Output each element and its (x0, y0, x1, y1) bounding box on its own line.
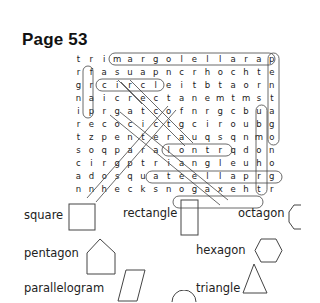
grid-letter: n (188, 157, 201, 170)
grid-letter: a (72, 170, 85, 183)
grid-letter: i (136, 118, 149, 131)
grid-letter: o (240, 79, 253, 92)
grid-letter: o (175, 183, 188, 196)
grid-letter: r (162, 131, 175, 144)
grid-letter: r (201, 105, 214, 118)
grid-letter: o (85, 144, 98, 157)
grid-letter: i (111, 79, 124, 92)
rectangle-icon (180, 199, 200, 237)
grid-letter: b (240, 105, 253, 118)
grid-letter: l (175, 53, 188, 66)
grid-letter: h (240, 183, 253, 196)
grid-letter: t (72, 53, 85, 66)
grid-letter: a (136, 66, 149, 79)
grid-letter: u (240, 118, 253, 131)
word-label: parallelogram (24, 281, 104, 295)
grid-letter: s (111, 66, 124, 79)
grid-letter: n (85, 183, 98, 196)
grid-letter: e (188, 170, 201, 183)
grid-letter: e (227, 183, 240, 196)
grid-letter: t (227, 92, 240, 105)
grid-letter: p (98, 131, 111, 144)
grid-letter: f (175, 105, 188, 118)
grid-letter: c (98, 79, 111, 92)
grid-letter: g (201, 157, 214, 170)
grid-letter: t (252, 66, 265, 79)
grid-letter: g (111, 157, 124, 170)
grid-letter: o (265, 157, 278, 170)
grid-letter: c (188, 118, 201, 131)
grid-row: nnhecksnogaxehtr (72, 183, 278, 196)
grid-row: cirgptriangleuho (72, 157, 278, 170)
grid-row: recocictgciroubg (72, 118, 278, 131)
grid-letter: h (252, 157, 265, 170)
grid-letter: c (149, 92, 162, 105)
grid-letter: t (136, 157, 149, 170)
grid-letter: e (111, 131, 124, 144)
grid-letter: e (265, 66, 278, 79)
grid-letter: m (240, 92, 253, 105)
grid-letter: l (214, 170, 227, 183)
word-search-grid: trimargolellaraprfasuapncrhochtegrcircle… (72, 53, 278, 196)
grid-letter: r (136, 53, 149, 66)
grid-letter: q (227, 131, 240, 144)
grid-letter: r (252, 170, 265, 183)
word-parallelogram: parallelogram (24, 281, 104, 295)
grid-letter: c (124, 118, 137, 131)
grid-letter: s (252, 92, 265, 105)
grid-letter: p (85, 105, 98, 118)
grid-letter: o (98, 170, 111, 183)
grid-letter: a (149, 144, 162, 157)
parallelogram-icon (117, 269, 147, 303)
grid-letter: c (72, 157, 85, 170)
grid-letter: i (162, 157, 175, 170)
grid-letter: i (175, 79, 188, 92)
grid-letter: a (252, 53, 265, 66)
grid-letter: r (124, 79, 137, 92)
word-pentagon: pentagon (24, 246, 79, 260)
grid-letter: t (72, 131, 85, 144)
grid-letter: p (265, 53, 278, 66)
grid-row: adosquateellaprg (72, 170, 278, 183)
grid-letter: a (201, 183, 214, 196)
grid-letter: b (252, 118, 265, 131)
grid-letter: t (162, 170, 175, 183)
grid-row: naicrectanemtmst (72, 92, 278, 105)
grid-letter: n (265, 79, 278, 92)
square-icon (68, 203, 96, 231)
grid-letter: l (201, 170, 214, 183)
grid-letter: r (136, 144, 149, 157)
grid-row: rfasuapncrhochte (72, 66, 278, 79)
grid-letter: a (175, 157, 188, 170)
grid-letter: m (111, 53, 124, 66)
grid-letter: i (85, 157, 98, 170)
grid-letter: n (72, 183, 85, 196)
word-label: octagon (238, 206, 285, 220)
grid-letter: e (227, 157, 240, 170)
grid-letter: p (124, 157, 137, 170)
grid-letter: s (149, 183, 162, 196)
grid-letter: c (149, 118, 162, 131)
grid-letter: o (214, 66, 227, 79)
grid-row: grcircleitbtaorn (72, 79, 278, 92)
grid-letter: q (124, 170, 137, 183)
grid-letter: g (149, 53, 162, 66)
grid-letter: r (240, 53, 253, 66)
grid-letter: u (124, 66, 137, 79)
grid-letter: o (111, 118, 124, 131)
grid-letter: n (188, 144, 201, 157)
grid-letter: a (85, 92, 98, 105)
word-triangle: triangle (196, 281, 240, 295)
grid-row: iprgatcofnrgcbua (72, 105, 278, 118)
grid-row: tzpenterauqsqnmo (72, 131, 278, 144)
word-hexagon: hexagon (196, 243, 246, 257)
grid-letter: t (252, 183, 265, 196)
grid-letter: n (188, 105, 201, 118)
grid-letter: c (111, 92, 124, 105)
grid-letter: a (124, 105, 137, 118)
grid-letter: g (111, 105, 124, 118)
word-label: pentagon (24, 246, 79, 260)
grid-letter: o (162, 53, 175, 66)
grid-letter: n (72, 92, 85, 105)
grid-letter: q (227, 144, 240, 157)
